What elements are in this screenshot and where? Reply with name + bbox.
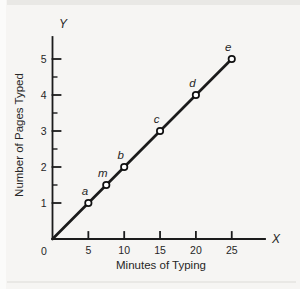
origin-label: 0 [41, 245, 47, 257]
x-tick-label: 5 [85, 244, 91, 256]
y-tick-label: 5 [41, 53, 47, 65]
x-tick-label: 10 [118, 244, 130, 256]
x-axis-letter: X [271, 232, 281, 246]
x-tick-label: 20 [190, 244, 202, 256]
series-layer: ambcde [53, 41, 235, 240]
y-tick-label: 1 [41, 197, 47, 209]
data-point-a [85, 200, 91, 206]
point-label-m: m [98, 167, 108, 179]
data-point-c [157, 128, 163, 134]
x-axis-title: Minutes of Typing [116, 259, 206, 271]
x-tick-label: 25 [226, 244, 238, 256]
x-tick-label: 15 [154, 244, 166, 256]
y-axis-title: Number of Pages Typed [13, 73, 25, 197]
point-label-d: d [189, 77, 196, 89]
typing-rate-chart: 51015202512345 ambcde Y X 0 Minutes of T… [0, 0, 300, 289]
page-bottom-edge [7, 281, 296, 283]
data-line [53, 59, 232, 239]
data-point-d [193, 92, 199, 98]
axes-layer: 51015202512345 [41, 37, 265, 256]
y-axis-letter: Y [59, 17, 68, 31]
scanned-page: 51015202512345 ambcde Y X 0 Minutes of T… [0, 0, 300, 289]
point-label-a: a [82, 185, 88, 197]
data-point-b [121, 164, 127, 170]
y-tick-label: 3 [41, 125, 47, 137]
data-point-m [103, 182, 109, 188]
point-label-c: c [154, 113, 160, 125]
y-tick-label: 2 [41, 161, 47, 173]
y-tick-label: 4 [41, 89, 47, 101]
data-point-e [229, 56, 235, 62]
point-label-e: e [225, 41, 231, 53]
point-label-b: b [117, 149, 124, 161]
